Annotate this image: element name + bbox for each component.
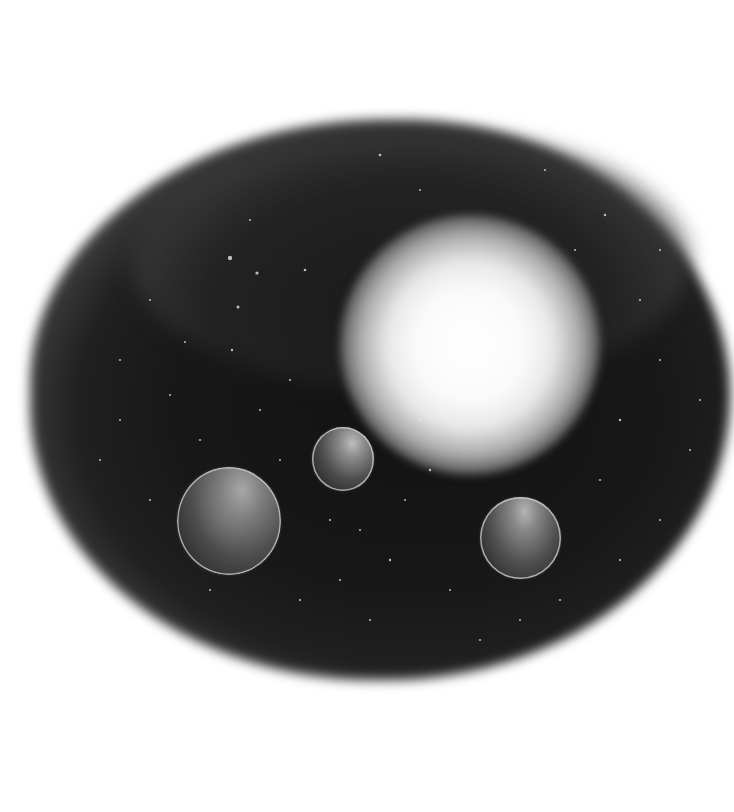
starfield [0, 0, 734, 812]
small-planet [312, 427, 374, 491]
large-planet [177, 467, 281, 575]
artwork-scene [0, 0, 734, 812]
right-planet [480, 497, 561, 579]
